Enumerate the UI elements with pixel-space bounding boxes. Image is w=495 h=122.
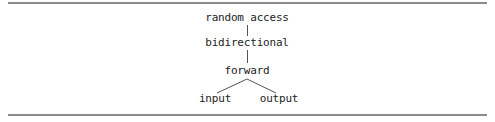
node-random-access: random access <box>205 12 289 24</box>
node-input: input <box>199 93 231 105</box>
node-forward: forward <box>225 65 270 77</box>
bottom-rule <box>8 114 487 116</box>
iterator-hierarchy-diagram: random access bidirectional forward inpu… <box>0 0 495 122</box>
node-bidirectional: bidirectional <box>205 37 289 49</box>
edge-forward-to-input <box>217 79 247 93</box>
edge-forward-to-output <box>247 79 276 93</box>
node-output: output <box>260 93 299 105</box>
